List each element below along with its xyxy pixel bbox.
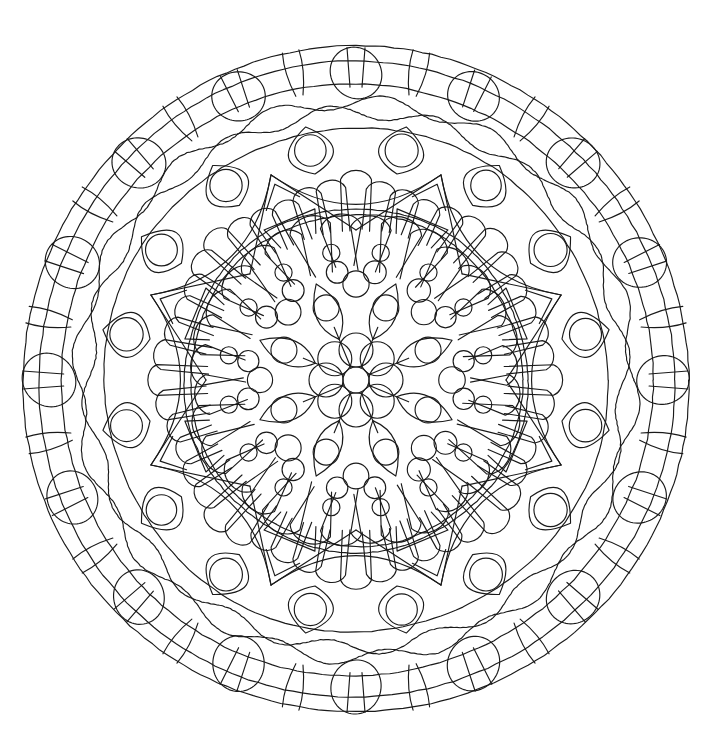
inner-petal — [351, 216, 391, 272]
outer-radial-stroke — [408, 50, 413, 95]
outer-bead-tick — [462, 652, 475, 691]
layer-center-rosette — [303, 327, 408, 432]
outer-bead-tick — [362, 673, 365, 713]
outer-bead-tick — [649, 386, 688, 389]
outer-bead-tick — [624, 245, 659, 263]
inner-lens-circle — [415, 337, 441, 363]
outer-radial-stroke — [514, 623, 535, 663]
bubble-circle — [407, 279, 430, 302]
leaf-small-circle — [470, 558, 503, 591]
outer-bead-tick — [558, 591, 585, 622]
center-spoke — [334, 327, 351, 368]
inner-lens-circle — [313, 439, 339, 465]
leaf-small-circle — [569, 409, 602, 442]
layer-outer-boundary-ring — [23, 45, 690, 711]
petal-finger — [478, 442, 528, 485]
bubble-circle — [363, 261, 386, 284]
outer-bead-tick — [127, 139, 153, 169]
leaf-small-circle — [146, 234, 178, 266]
leaf-small-circle — [210, 558, 243, 591]
petal-finger — [176, 425, 222, 464]
outer-boundary-circle-1 — [23, 45, 690, 711]
petal-finger — [437, 492, 484, 542]
center-spoke — [303, 358, 344, 375]
petal-finger — [293, 188, 331, 240]
outer-bead-tick — [624, 498, 660, 516]
inner-lens-circle — [373, 295, 399, 321]
outer-radial-stroke — [26, 323, 71, 328]
mandala-canvas — [0, 0, 712, 751]
leaf-small-circle — [534, 493, 567, 526]
wavy-band-line-2 — [82, 106, 630, 654]
center-spoke — [361, 327, 378, 368]
center-spoke — [368, 385, 409, 402]
outer-bead-circle — [47, 471, 98, 524]
outer-bead-tick — [649, 371, 688, 374]
layer-bubble-cluster-ring — [220, 244, 492, 516]
outer-radial-stroke — [26, 432, 71, 437]
outer-bead-tick — [23, 371, 64, 374]
inner-lens-circle — [313, 295, 339, 321]
inner-petal — [458, 315, 517, 356]
outer-radial-stroke — [408, 665, 413, 710]
outer-bead-tick — [559, 139, 585, 169]
outer-bead-circle — [330, 47, 382, 99]
bubble-circle — [411, 300, 436, 325]
outer-bead-tick — [629, 261, 667, 273]
outer-bead-tick — [237, 652, 250, 691]
outer-bead-tick — [45, 486, 83, 498]
center-spoke — [334, 392, 351, 433]
inner-petal — [202, 424, 263, 473]
outer-bead-tick — [237, 70, 249, 107]
layer-inner-lens-ring — [260, 284, 452, 476]
bubble-circle — [439, 367, 466, 394]
petal-finger — [204, 475, 261, 532]
petal-finger — [250, 208, 293, 258]
outer-radial-stroke — [29, 440, 72, 453]
inner-lens-circle — [271, 397, 297, 423]
petal-finger — [251, 504, 292, 550]
bubble-circle — [343, 271, 369, 297]
outer-bead-tick — [567, 582, 598, 609]
outer-bead-circle — [331, 660, 381, 714]
petal-finger — [293, 523, 330, 573]
outer-bead-circle — [212, 72, 266, 121]
petal-finger — [497, 317, 548, 354]
center-spoke — [303, 385, 344, 402]
outer-bead-tick — [52, 498, 88, 516]
outer-bead-circle — [112, 138, 166, 188]
outer-bead-tick — [347, 673, 350, 713]
bubble-circle — [238, 351, 259, 372]
petal-finger — [362, 529, 396, 582]
star-connector-arc — [271, 175, 441, 205]
layer-star-ring — [151, 175, 561, 585]
center-spoke — [368, 358, 409, 375]
star-connector-arc — [151, 175, 271, 295]
bubble-circle — [237, 388, 259, 410]
leaf-small-circle — [385, 134, 418, 167]
bubble-circle — [453, 388, 474, 409]
inner-petal — [290, 487, 331, 544]
bubble-circle — [434, 431, 457, 454]
star-spike — [356, 175, 462, 274]
outer-bead-tick — [23, 386, 64, 389]
inner-lens-circle — [373, 439, 399, 465]
outer-bead-tick — [347, 48, 350, 87]
outer-boundary-circle-3 — [61, 84, 654, 676]
star-spike — [462, 380, 561, 486]
layer-petal-ring-inner — [191, 214, 520, 545]
petal-finger — [156, 386, 210, 420]
leaf-small-circle — [294, 593, 326, 625]
leaf-small-circle — [569, 318, 601, 350]
outer-bead-tick — [474, 77, 492, 112]
outer-radial-stroke — [416, 53, 429, 96]
leaf-small-circle — [386, 594, 417, 625]
outer-bead-circle — [447, 636, 499, 691]
leaf-small-circle — [110, 318, 143, 351]
outer-bead-tick — [629, 486, 667, 499]
inner-lens-circle — [415, 397, 441, 423]
outer-radial-stroke — [177, 97, 198, 137]
leaf-small-circle — [210, 169, 242, 201]
star-spike — [250, 175, 356, 274]
star-connector-arc — [532, 295, 562, 465]
